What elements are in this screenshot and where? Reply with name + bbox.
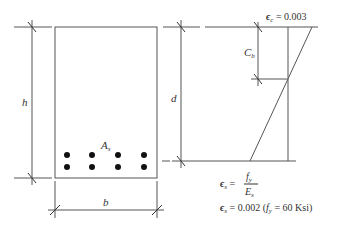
concrete-strain-label: ϵc = 0.003 (266, 11, 307, 24)
b-dimension: b (48, 181, 164, 218)
rebar (141, 164, 147, 170)
steel-area-label: As (100, 139, 111, 153)
d-label: d (171, 92, 177, 104)
cb-label: Cb (244, 46, 255, 60)
rebar (141, 152, 147, 158)
b-label: b (103, 196, 109, 208)
rebar (115, 152, 121, 158)
svg-text:ϵs =: ϵs = (220, 178, 236, 191)
d-dimension: d (163, 20, 318, 168)
svg-text:fy: fy (246, 171, 253, 184)
strain-profile-line (250, 27, 312, 161)
rebar (115, 164, 121, 170)
h-dimension: h (14, 20, 52, 185)
h-label: h (22, 96, 28, 108)
rebar (89, 152, 95, 158)
svg-text:Es: Es (244, 186, 254, 199)
rebar-group (64, 152, 147, 170)
rebar (64, 152, 70, 158)
steel-strain-value: ϵs = 0.002 (fy = 60 Ksi) (220, 202, 312, 215)
beam-strain-diagram: h b As d Cb (0, 0, 342, 227)
rebar (89, 164, 95, 170)
rebar (64, 164, 70, 170)
steel-strain-formula: ϵs = fy Es (220, 171, 258, 199)
cb-dimension: Cb (244, 22, 287, 86)
